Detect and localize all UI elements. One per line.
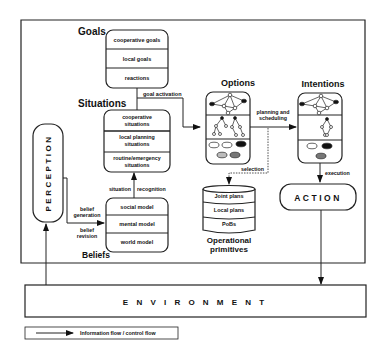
edge-situation: situation — [109, 186, 131, 192]
options-box: Options — [206, 78, 255, 164]
situations-box: Situations cooperative situations local … — [78, 98, 170, 172]
primitives-title: Operational — [207, 236, 251, 245]
primitives-item-joint-plans: Joint plans — [214, 193, 243, 199]
primitives-title-2: primitives — [210, 245, 248, 254]
situations-item-routine: routine/emergency — [113, 155, 160, 161]
environment-label: E N V I R O N M E N T — [123, 298, 267, 307]
beliefs-item-mental: mental model — [119, 221, 155, 227]
situations-item-local-planning: local planning — [119, 134, 155, 140]
primitives-item-pobs: PoBs — [222, 221, 236, 227]
beliefs-item-world: world model — [120, 239, 154, 245]
edge-selection: selection — [241, 166, 264, 172]
goals-title: Goals — [78, 26, 106, 37]
goals-item-reactions: reactions — [125, 75, 149, 81]
beliefs-title: Beliefs — [82, 250, 110, 260]
edge-belief-revision-2: revision — [77, 233, 97, 239]
edge-planning-2: scheduling — [259, 115, 287, 121]
environment-box: E N V I R O N M E N T — [25, 285, 366, 317]
situations-item-routine-2: situations — [124, 162, 149, 168]
perception-box: PERCEPTION — [33, 124, 63, 222]
situations-item-cooperative-2: situations — [124, 121, 149, 127]
situations-item-cooperative: cooperative — [122, 114, 152, 120]
action-box: ACTION — [280, 184, 356, 210]
primitives-item-local-plans: Local plans — [214, 207, 244, 213]
edge-recognition: recognition — [137, 186, 166, 192]
action-label: ACTION — [294, 193, 342, 203]
goals-item-local: local goals — [123, 56, 151, 62]
beliefs-box: social model mental model world model Be… — [82, 198, 168, 260]
situations-item-local-planning-2: situations — [124, 141, 149, 147]
perception-label: PERCEPTION — [44, 134, 53, 211]
edge-belief-generation-2: generation — [73, 212, 100, 218]
situations-title: Situations — [78, 98, 127, 109]
beliefs-item-social: social model — [120, 204, 154, 210]
agent-architecture-diagram: Goals cooperative goals local goals reac… — [0, 0, 383, 359]
goals-box: Goals cooperative goals local goals reac… — [78, 26, 168, 88]
options-title: Options — [221, 78, 255, 88]
edge-goal-activation: goal activation — [143, 91, 182, 97]
intentions-title: Intentions — [302, 79, 345, 89]
legend: Information flow / control flow — [25, 327, 178, 339]
operational-primitives-box: Joint plans Local plans PoBs Operational… — [203, 186, 255, 255]
edge-execution: execution — [325, 170, 350, 176]
goals-item-cooperative: cooperative goals — [114, 37, 161, 43]
intentions-box: Intentions — [298, 79, 345, 163]
legend-label: Information flow / control flow — [80, 330, 157, 336]
